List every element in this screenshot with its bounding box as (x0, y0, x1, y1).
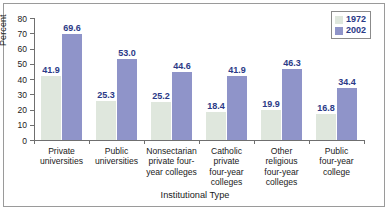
category-label-line: four-year (196, 167, 257, 177)
category-label-line: Catholic (196, 146, 257, 156)
category-label-line: Public (306, 146, 367, 156)
y-tick-label: 60 (18, 45, 27, 54)
bar-value-label: 41.9 (228, 66, 246, 75)
y-tick-label: 20 (18, 106, 27, 115)
bar-2002-1[interactable]: 69.6 (62, 34, 82, 140)
x-tick-mark (89, 140, 90, 144)
bar-1972-6[interactable]: 16.8 (316, 114, 336, 140)
bar-value-label: 44.6 (173, 62, 191, 71)
bar-value-label: 53.0 (118, 49, 136, 58)
category-label-line: year colleges (141, 167, 202, 177)
category-label-6: Publicfour-yearcollege (306, 146, 367, 177)
category-label-line: college (306, 167, 367, 177)
y-tick-label: 50 (18, 60, 27, 69)
category-label-4: Catholicprivatefour-yearcolleges (196, 146, 257, 188)
category-label-line: colleges (196, 177, 257, 187)
x-tick-mark (309, 140, 310, 144)
category-label-line: private (196, 156, 257, 166)
plot-area: 41.969.625.353.025.244.618.441.919.946.3… (34, 18, 364, 140)
legend-label-1972: 1972 (346, 15, 366, 24)
category-label-3: Nonsectarianprivate four-year colleges (141, 146, 202, 177)
bar-value-label: 25.3 (97, 91, 115, 100)
bar-value-label: 16.8 (317, 104, 335, 113)
bar-1972-4[interactable]: 18.4 (206, 112, 226, 140)
bar-1972-2[interactable]: 25.3 (96, 101, 116, 140)
category-label-line: religious (251, 156, 312, 166)
y-tick-label: 70 (18, 30, 27, 39)
category-label-2: Publicuniversities (86, 146, 147, 167)
bar-1972-3[interactable]: 25.2 (151, 102, 171, 140)
bar-2002-6[interactable]: 34.4 (337, 88, 357, 140)
bar-value-label: 41.9 (42, 66, 60, 75)
category-label-line: private four- (141, 156, 202, 166)
bar-value-label: 25.2 (152, 92, 170, 101)
bar-2002-4[interactable]: 41.9 (227, 76, 247, 140)
category-label-line: universities (86, 156, 147, 166)
x-tick-mark (254, 140, 255, 144)
y-axis-title: Percent (0, 14, 8, 46)
category-label-line: Other (251, 146, 312, 156)
bar-value-label: 46.3 (283, 59, 301, 68)
bar-2002-5[interactable]: 46.3 (282, 69, 302, 140)
category-label-line: four-year (306, 156, 367, 166)
bar-group: 25.353.0 (89, 18, 144, 140)
bar-2002-3[interactable]: 44.6 (172, 72, 192, 140)
category-label-1: Privateuniversities (31, 146, 92, 167)
legend-item-1972[interactable]: 1972 (335, 14, 366, 25)
x-axis-title: Institutional Type (0, 190, 390, 200)
bar-value-label: 19.9 (262, 100, 280, 109)
legend-item-2002[interactable]: 2002 (335, 25, 366, 36)
legend-label-2002: 2002 (346, 26, 366, 35)
legend: 1972 2002 (331, 11, 371, 39)
y-tick-label: 40 (18, 75, 27, 84)
x-tick-mark (34, 140, 35, 144)
category-label-5: Otherreligiousfour-yearcolleges (251, 146, 312, 188)
bar-2002-2[interactable]: 53.0 (117, 59, 137, 140)
category-label-line: colleges (251, 177, 312, 187)
bar-value-label: 69.6 (63, 24, 81, 33)
y-tick-label: 80 (18, 14, 27, 23)
x-tick-mark (199, 140, 200, 144)
category-label-line: Public (86, 146, 147, 156)
x-tick-mark (364, 140, 365, 144)
y-tick-label: 10 (18, 121, 27, 130)
bar-1972-5[interactable]: 19.9 (261, 110, 281, 140)
category-label-line: four-year (251, 167, 312, 177)
category-label-line: Nonsectarian (141, 146, 202, 156)
x-tick-mark (144, 140, 145, 144)
legend-swatch-1972-icon (335, 16, 343, 24)
bar-group: 25.244.6 (144, 18, 199, 140)
y-tick-label: 0 (22, 136, 27, 145)
category-label-line: universities (31, 156, 92, 166)
bar-value-label: 34.4 (338, 78, 356, 87)
bar-1972-1[interactable]: 41.9 (41, 76, 61, 140)
bar-group: 19.946.3 (254, 18, 309, 140)
category-label-line: Private (31, 146, 92, 156)
bar-group: 18.441.9 (199, 18, 254, 140)
legend-swatch-2002-icon (335, 27, 343, 35)
y-tick-label: 30 (18, 91, 27, 100)
bar-chart-figure: Percent 01020304050607080 41.969.625.353… (0, 0, 390, 212)
bar-group: 41.969.6 (34, 18, 89, 140)
bar-value-label: 18.4 (207, 102, 225, 111)
